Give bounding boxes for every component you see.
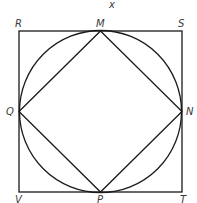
label-Q: Q — [6, 106, 14, 117]
inner-square-MNPQ — [19, 31, 182, 192]
label-P: P — [97, 194, 104, 203]
inscribed-circle — [20, 31, 182, 193]
label-T: T — [180, 194, 187, 203]
label-V: V — [15, 194, 23, 203]
geometry-diagram: x R M S Q N V P T — [0, 0, 197, 203]
outer-square-RSTV — [19, 31, 182, 192]
label-N: N — [186, 106, 194, 117]
label-S: S — [178, 18, 185, 29]
label-M: M — [96, 18, 105, 29]
label-x: x — [108, 0, 115, 10]
label-R: R — [15, 18, 22, 29]
